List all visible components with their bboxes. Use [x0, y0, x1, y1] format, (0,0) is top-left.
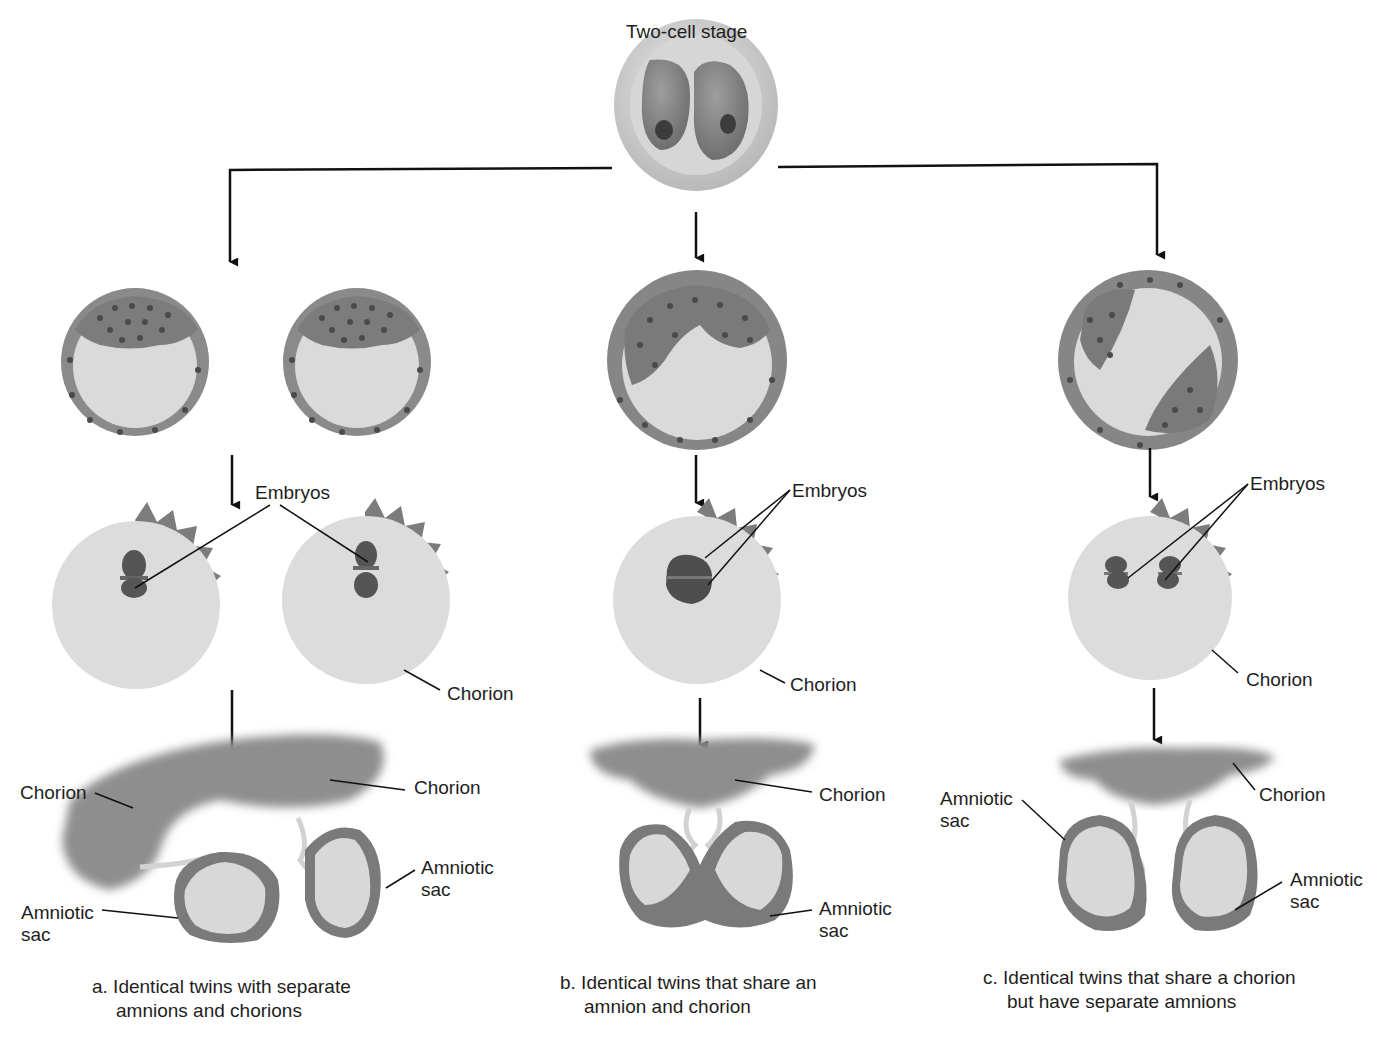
panel-b-chorion-vesicle: [613, 498, 781, 684]
panel-a-caption: a. Identical twins with separate amnions…: [92, 975, 351, 1023]
panel-c-caption: c. Identical twins that share a chorion …: [983, 966, 1296, 1014]
panel-a-amniotic-sac-label-left: Amniotic sac: [21, 902, 94, 946]
panel-a-chorion-vesicle-1: [52, 502, 221, 689]
amniotic-label-line1: Amniotic: [421, 857, 494, 878]
panel-b-amniotic-sac-label: Amniotic sac: [819, 898, 892, 942]
panel-c-chorion-label: Chorion: [1259, 784, 1326, 806]
stage-arrows-row2: [232, 448, 1150, 505]
panel-a-embryos-label: Embryos: [255, 482, 330, 504]
amniotic-label-line2: sac: [21, 924, 51, 945]
caption-line2: amnion and chorion: [560, 995, 817, 1019]
panel-c-embryos-label: Embryos: [1250, 473, 1325, 495]
panel-a-chorion-label-vesicle: Chorion: [447, 683, 514, 705]
amniotic-label-line1: Amniotic: [940, 788, 1013, 809]
two-cell-stage-zygote: [614, 19, 778, 191]
panel-c-placenta: [1060, 747, 1275, 805]
two-cell-stage-title: Two-cell stage: [626, 21, 747, 43]
panel-b-blastocyst: [607, 270, 787, 450]
amniotic-label-line2: sac: [819, 920, 849, 941]
panel-a-chorion-label-right: Chorion: [414, 777, 481, 799]
panel-a-chorion-label-left: Chorion: [20, 782, 87, 804]
amniotic-label-line2: sac: [940, 810, 970, 831]
panel-c-amniotic-sac-label-right: Amniotic sac: [1290, 869, 1363, 913]
caption-line2: amnions and chorions: [92, 999, 351, 1023]
twinning-diagram: [0, 0, 1389, 1040]
caption-line2: but have separate amnions: [983, 990, 1296, 1014]
panel-b-chorion-label: Chorion: [819, 784, 886, 806]
amniotic-label-line2: sac: [1290, 891, 1320, 912]
panel-a-blastocyst-2: [283, 288, 431, 436]
panel-a-chorion-vesicle-2: [282, 498, 450, 684]
panel-a-amniotic-sac-label-right: Amniotic sac: [421, 857, 494, 901]
caption-line1: b. Identical twins that share an: [560, 972, 817, 993]
panel-b-shared-amniotic-sac: [619, 821, 793, 928]
panel-c-amniotic-sac-label-left: Amniotic sac: [940, 788, 1013, 832]
panel-c-amniotic-sacs: [1058, 815, 1258, 931]
panel-b-caption: b. Identical twins that share an amnion …: [560, 971, 817, 1019]
panel-c-chorion-label-vesicle: Chorion: [1246, 669, 1313, 691]
caption-line1: c. Identical twins that share a chorion: [983, 967, 1296, 988]
panel-b-placenta: [590, 738, 815, 808]
amniotic-label-line1: Amniotic: [21, 902, 94, 923]
panel-b-chorion-label-vesicle: Chorion: [790, 674, 857, 696]
amniotic-label-line1: Amniotic: [1290, 869, 1363, 890]
panel-c-chorion-vesicle: [1068, 498, 1232, 680]
panel-a-blastocyst-1: [61, 288, 209, 436]
amniotic-label-line2: sac: [421, 879, 451, 900]
panel-a-amniotic-sacs: [174, 828, 381, 944]
panel-b-embryos-label: Embryos: [792, 480, 867, 502]
caption-line1: a. Identical twins with separate: [92, 976, 351, 997]
amniotic-label-line1: Amniotic: [819, 898, 892, 919]
panel-c-blastocyst: [1058, 270, 1238, 450]
